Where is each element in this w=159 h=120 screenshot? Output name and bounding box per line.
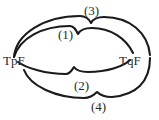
figure-container: TpF TqF (1) (2) (3) (4) xyxy=(0,0,159,120)
arc-label-4: (4) xyxy=(91,100,106,113)
curve-outer-upper-3 xyxy=(14,16,150,57)
curve-inner-lower-2 xyxy=(18,60,130,74)
arc-label-1: (1) xyxy=(58,28,73,41)
arc-label-2: (2) xyxy=(74,79,89,92)
endpoint-label-left: TpF xyxy=(3,54,25,67)
endpoint-label-right: TqF xyxy=(119,54,141,67)
arc-label-3: (3) xyxy=(84,4,99,17)
